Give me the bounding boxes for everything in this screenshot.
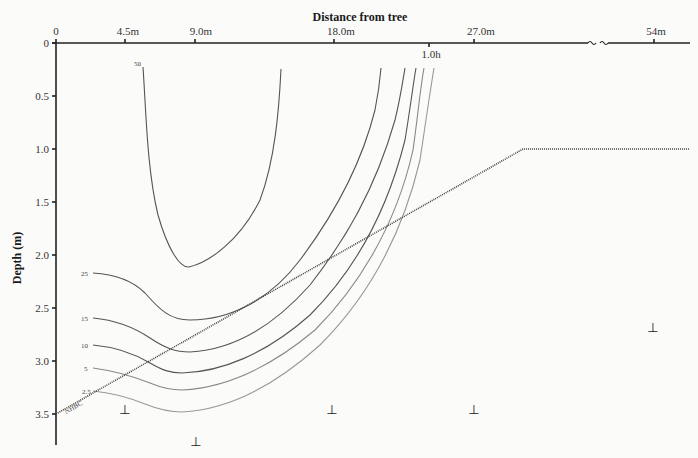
contour-label-10: 10 — [81, 342, 89, 350]
depth-contour-chart: Distance from tree 0 4.5m 9.0m 18.0m 27.… — [0, 0, 698, 458]
y-tick-0: 0 — [44, 37, 50, 49]
contour-50 — [143, 67, 281, 267]
contour-label-25: 25 — [81, 270, 89, 278]
contour-label-5: 5 — [84, 365, 88, 373]
x-tick-54m: 54m — [646, 25, 666, 37]
y-tick-3-5: 3.5 — [35, 408, 49, 420]
x-tick-0: 0 — [53, 25, 59, 37]
contour-2-5 — [93, 68, 434, 412]
contour-25 — [93, 68, 381, 320]
contours — [93, 67, 434, 412]
y-tick-0-5: 0.5 — [35, 90, 49, 102]
x-axis — [52, 39, 690, 47]
y-tick-2-5: 2.5 — [35, 302, 49, 314]
x-tick-4-5m: 4.5m — [117, 25, 140, 37]
x-axis-title: Distance from tree — [313, 10, 409, 24]
contour-label-15: 15 — [81, 315, 89, 323]
contour-10 — [93, 68, 416, 373]
nhbc-label: NHBC — [63, 399, 84, 416]
contour-label-2-5: 2.5 — [82, 388, 91, 396]
contour-15 — [93, 68, 405, 352]
y-tick-2-0: 2.0 — [35, 249, 49, 261]
nhbc-line — [56, 149, 690, 414]
x-tick-9m: 9.0m — [190, 25, 213, 37]
foundation-marker-54m: ⊥ — [647, 320, 658, 335]
one-h-label: 1.0h — [421, 48, 441, 60]
y-tick-3-0: 3.0 — [35, 355, 49, 367]
foundation-marker-4-5m: ⊥ — [119, 402, 130, 417]
foundation-marker-9m: ⊥ — [190, 434, 201, 449]
y-axis-title: Depth (m) — [10, 232, 24, 284]
x-tick-18m: 18.0m — [327, 25, 355, 37]
foundation-marker-27m: ⊥ — [468, 402, 479, 417]
foundation-marker-18m: ⊥ — [326, 402, 337, 417]
y-tick-1-5: 1.5 — [35, 196, 49, 208]
x-tick-27m: 27.0m — [467, 25, 495, 37]
contour-label-50: 50 — [134, 60, 142, 68]
y-axis — [52, 43, 56, 445]
y-tick-1-0: 1.0 — [35, 143, 49, 155]
contour-5 — [93, 68, 424, 390]
